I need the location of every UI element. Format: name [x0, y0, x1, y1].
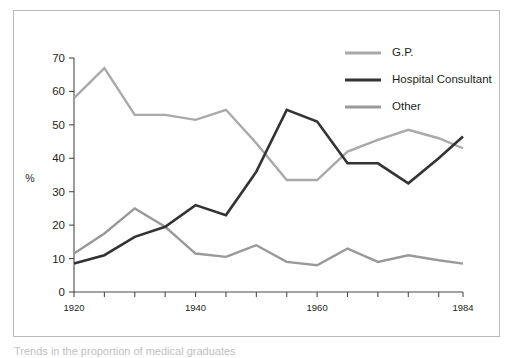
y-tick: 50	[52, 119, 74, 131]
y-tick-label: 40	[52, 152, 65, 164]
y-tick-label: 0	[59, 286, 65, 298]
x-tick-label: 1960	[307, 302, 328, 313]
legend-label-0: G.P.	[392, 46, 414, 58]
y-tick-label: 10	[52, 253, 65, 265]
line-chart-plot: 010203040506070%1920194019601984 G.P.Hos…	[0, 0, 514, 358]
figure-caption: Trends in the proportion of medical grad…	[14, 345, 314, 358]
series-line-hospital-consultant	[74, 110, 463, 264]
legend-label-2: Other	[392, 100, 421, 112]
y-tick-label: 50	[52, 119, 65, 131]
y-tick: 30	[52, 186, 74, 198]
y-tick: 40	[52, 152, 74, 164]
y-tick: 70	[52, 52, 74, 64]
y-axis-title: %	[25, 172, 34, 184]
chart-legend: G.P.Hospital ConsultantOther	[345, 46, 493, 112]
x-tick-label: 1920	[63, 302, 84, 313]
y-tick: 20	[52, 219, 74, 231]
y-tick: 10	[52, 253, 74, 265]
y-tick: 60	[52, 85, 74, 97]
y-tick: 0	[59, 286, 74, 298]
x-tick-label: 1984	[452, 302, 473, 313]
y-tick-label: 70	[52, 52, 65, 64]
chart-figure: 010203040506070%1920194019601984 G.P.Hos…	[0, 0, 514, 358]
y-tick-label: 60	[52, 85, 65, 97]
y-tick-label: 30	[52, 186, 65, 198]
legend-label-1: Hospital Consultant	[392, 73, 493, 85]
y-tick-label: 20	[52, 219, 65, 231]
x-tick-label: 1940	[185, 302, 206, 313]
chart-series	[74, 68, 463, 265]
